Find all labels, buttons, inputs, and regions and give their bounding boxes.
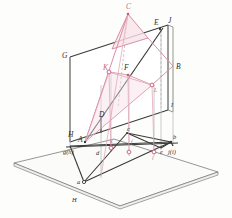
point-A [84,141,86,143]
label-A: A [78,136,83,144]
label-B: B [176,63,181,71]
label-k: k [110,139,113,145]
point-l [152,150,156,154]
point-E [159,28,161,30]
label-f: f [131,140,133,146]
label-ji: j(i) [168,149,176,155]
label-gh: g(h) [63,149,74,155]
projection-figure [0,0,232,218]
point-k [109,146,113,150]
point-C [127,13,130,16]
point-b [170,141,172,143]
label-c: c [127,126,130,132]
ground-edge-c-b [127,133,171,142]
label-G: G [62,52,67,60]
label-F: F [124,64,129,72]
label-C: C [126,3,131,11]
drawing-canvas: C E J G K F B L I D H A c b g(h) d k f l… [0,0,232,218]
point-F [127,74,130,77]
ground-plane-face [14,139,218,206]
ground-plane [14,139,218,209]
point-f [127,150,131,154]
label-J: J [168,17,171,25]
label-L: L [154,88,157,94]
label-a: a [77,179,80,185]
label-D: D [99,111,104,119]
label-d: d [96,150,99,156]
label-I: I [171,103,173,109]
label-l: l [152,156,154,162]
label-e: e [160,149,163,155]
label-H-ground-plane: H [72,197,77,203]
vertical-plane-right-corner-bottom [168,110,173,112]
point-a [82,180,85,183]
label-b: b [173,134,176,140]
vertical-plane-right-corner-top [168,25,173,27]
label-H: H [68,131,73,139]
label-E: E [154,19,159,27]
label-K: K [103,64,108,72]
